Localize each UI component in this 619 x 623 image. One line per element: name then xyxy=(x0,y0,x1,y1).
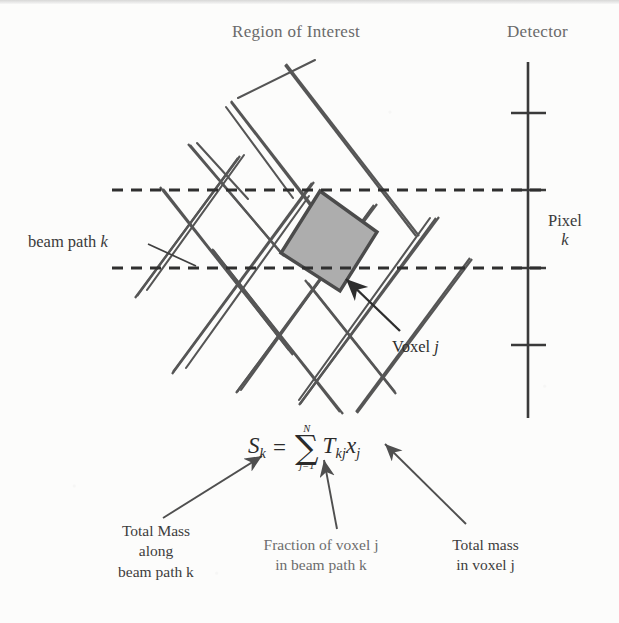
equation-term-T-symbol: T xyxy=(323,433,336,458)
pixel-index: k xyxy=(548,230,582,249)
equation-equals: = xyxy=(273,435,286,461)
equation-term-x-symbol: x xyxy=(346,433,356,458)
figure-page: Region of Interest Detector beam path k … xyxy=(0,0,619,623)
detector-label: Detector xyxy=(507,22,568,42)
caption-line: in beam path k xyxy=(231,555,411,575)
equation-lhs-symbol: S xyxy=(248,433,260,458)
equation-lhs: Sk xyxy=(248,433,266,462)
voxel-label: Voxel j xyxy=(392,337,439,356)
pixel-text: Pixel xyxy=(548,211,582,230)
summation-operator: N ∑ j=1 xyxy=(295,424,319,471)
voxel-text: Voxel xyxy=(392,337,430,356)
grid-line-b2 xyxy=(197,143,248,199)
equation: Sk = N ∑ j=1 Tkj xj xyxy=(248,424,360,471)
caption-line: along xyxy=(86,541,226,561)
beam-path-index: k xyxy=(100,232,107,251)
voxel-index: j xyxy=(434,337,439,356)
caption-line: Total mass xyxy=(418,535,553,555)
sigma-icon: ∑ xyxy=(295,434,319,461)
grid-line-a2 xyxy=(186,196,309,368)
caption-line: Fraction of voxel j xyxy=(231,535,411,555)
beam-path-label: beam path k xyxy=(28,232,108,251)
region-of-interest-label: Region of Interest xyxy=(232,22,360,42)
beam-path-text: beam path xyxy=(28,232,96,251)
grid-se-2 xyxy=(285,65,416,236)
grid-line-b1 xyxy=(238,60,315,98)
equation-term-x-subscript: j xyxy=(356,445,360,461)
caption-line: in voxel j xyxy=(418,555,553,575)
equation-lhs-subscript: k xyxy=(260,445,267,461)
equation-term-x: xj xyxy=(346,433,360,462)
caption-total-mass-along-beam-path: Total Mass along beam path k xyxy=(86,521,226,582)
equation-term-T-subscript: kj xyxy=(335,445,346,461)
caption-total-mass-in-voxel: Total mass in voxel j xyxy=(418,535,553,576)
grid-ne-5 xyxy=(356,258,470,412)
caption-line: beam path k xyxy=(86,562,226,582)
caption-line: Total Mass xyxy=(86,521,226,541)
caption-fraction-of-voxel-in-beam-path: Fraction of voxel j in beam path k xyxy=(231,535,411,576)
equation-term-T: Tkj xyxy=(323,433,346,462)
pixel-label: Pixel k xyxy=(548,211,582,250)
lattice-family-v xyxy=(135,156,472,413)
arrow-total-mass-voxel-to-xj xyxy=(385,444,466,524)
sum-lower-limit: j=1 xyxy=(299,461,314,472)
detector xyxy=(511,62,546,418)
